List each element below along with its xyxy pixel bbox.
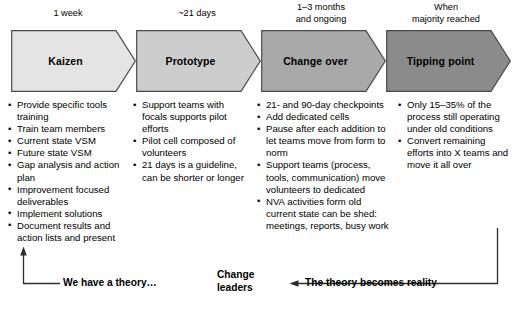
phase-timing-change-over: 1–3 months and ongoing (261, 2, 381, 25)
list-item: Support teams (process, tools, communica… (257, 159, 393, 195)
diagram-canvas: 1 week ~21 days 1–3 months and ongoing W… (0, 0, 514, 309)
list-item: Current state VSM (8, 135, 130, 147)
list-item: Support teams with focals supports pilot… (133, 99, 249, 135)
bullet-list: Only 15–35% of the process still operati… (398, 99, 510, 172)
phase-banner-change-over[interactable]: Change over (261, 30, 386, 92)
phase-banner-label: Prototype (166, 55, 216, 67)
footer-caption-center: Change leaders (217, 269, 254, 294)
list-item: Train team members (8, 123, 130, 135)
list-item: Document results and action lists and pr… (8, 220, 130, 244)
list-item: Pause after each addition to let teams m… (257, 123, 393, 159)
list-item: Improvement focused deliverables (8, 184, 130, 208)
up-arrow-icon (20, 247, 27, 256)
bullet-list: 21- and 90-day checkpoints Add dedicated… (257, 99, 393, 232)
list-item: 21 days is a guideline, can be shorter o… (133, 159, 249, 183)
phase-banner-row: Kaizen Prototype Change over Tipping poi… (0, 30, 514, 92)
phase-bullets-kaizen: Provide specific tools training Train te… (8, 99, 130, 244)
left-feedback-arrow (20, 247, 60, 284)
phase-banner-kaizen[interactable]: Kaizen (11, 30, 136, 92)
list-item: Future state VSM (8, 147, 130, 159)
list-item: Add dedicated cells (257, 111, 393, 123)
phase-bullets-prototype: Support teams with focals supports pilot… (133, 99, 249, 184)
phase-banner-label: Kaizen (48, 55, 82, 67)
bullet-list: Support teams with focals supports pilot… (133, 99, 249, 184)
list-item: NVA activities form old current state ca… (257, 196, 393, 232)
phase-banner-prototype[interactable]: Prototype (136, 30, 261, 92)
phase-bullets-change-over: 21- and 90-day checkpoints Add dedicated… (257, 99, 393, 232)
phase-banner-label: Change over (283, 55, 348, 67)
phase-banner-label: Tipping point (407, 55, 475, 67)
list-item: 21- and 90-day checkpoints (257, 99, 393, 111)
list-item: Gap analysis and action plan (8, 159, 130, 183)
phase-timing-prototype: ~21 days (137, 8, 257, 20)
phase-bullets-tipping-point: Only 15–35% of the process still operati… (398, 99, 510, 172)
list-item: Pilot cell composed of volunteers (133, 135, 249, 159)
list-item: Convert remaining efforts into X teams a… (398, 135, 510, 171)
left-arrow-icon (290, 280, 299, 287)
phase-timing-kaizen: 1 week (8, 8, 128, 20)
bullet-list: Provide specific tools training Train te… (8, 99, 130, 244)
phase-timing-tipping-point: When majority reached (385, 2, 507, 25)
phase-banner-tipping-point[interactable]: Tipping point (386, 30, 511, 92)
footer-caption-right: The theory becomes reality (305, 277, 437, 288)
list-item: Provide specific tools training (8, 99, 130, 123)
footer-caption-left: We have a theory… (63, 277, 157, 288)
list-item: Only 15–35% of the process still operati… (398, 99, 510, 135)
list-item: Implement solutions (8, 208, 130, 220)
